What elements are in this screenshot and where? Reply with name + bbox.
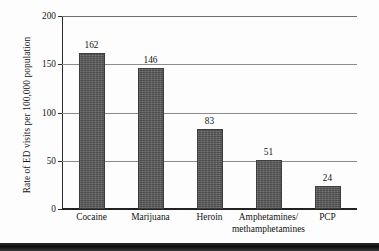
bar-value-label: 51	[264, 147, 273, 157]
bar-chart-figure: Rate of ED visits per 100,000 population…	[0, 0, 379, 251]
bar: 51	[256, 160, 282, 209]
y-tick-mark	[58, 209, 62, 210]
x-category-line: PCP	[319, 212, 336, 222]
y-tick-mark	[58, 16, 62, 17]
bar: 162	[79, 53, 105, 209]
x-category-line: methamphetamines	[232, 224, 305, 236]
y-tick-mark	[58, 64, 62, 65]
y-tick-label: 100	[42, 108, 56, 118]
x-category-line: Cocaine	[76, 212, 107, 222]
x-category-label: Heroin	[196, 212, 222, 224]
x-category-line: Heroin	[196, 212, 222, 222]
bar-value-label: 83	[205, 116, 214, 126]
y-tick-label: 200	[42, 11, 56, 21]
y-tick-mark	[58, 113, 62, 114]
bar: 83	[197, 129, 223, 209]
x-category-label: PCP	[319, 212, 336, 224]
bar-value-label: 24	[323, 173, 332, 183]
y-tick-label: 0	[51, 204, 56, 214]
x-category-label: Amphetamines/methamphetamines	[232, 212, 305, 235]
bar: 24	[315, 186, 341, 209]
scan-edge-band	[0, 243, 379, 251]
bar-value-label: 162	[85, 40, 99, 50]
y-tick-label: 50	[47, 156, 56, 166]
gridline-150	[62, 64, 357, 65]
x-category-label: Marijuana	[131, 212, 170, 224]
plot-area: 050100150200 162146835124 CocaineMarijua…	[62, 16, 357, 209]
x-category-line: Amphetamines/	[239, 212, 298, 222]
y-axis-title: Rate of ED visits per 100,000 population	[22, 15, 32, 215]
gridline-200	[62, 16, 357, 17]
x-category-label: Cocaine	[76, 212, 107, 224]
y-tick-label: 150	[42, 59, 56, 69]
bar: 146	[138, 68, 164, 209]
x-category-line: Marijuana	[131, 212, 170, 222]
gridline-100	[62, 113, 357, 114]
y-tick-mark	[58, 161, 62, 162]
bar-value-label: 146	[144, 55, 158, 65]
